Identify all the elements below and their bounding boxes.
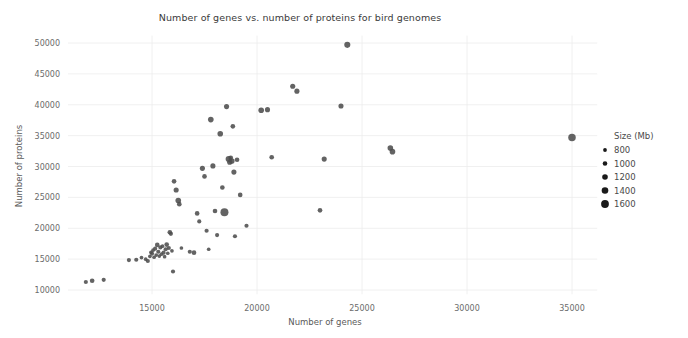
data-point [140, 256, 144, 260]
legend-marker [602, 187, 609, 194]
data-point [127, 258, 131, 262]
data-point [188, 250, 192, 254]
data-point [290, 84, 295, 89]
legend-marker [603, 161, 608, 166]
data-point [224, 104, 229, 109]
legend-title: Size (Mb) [614, 131, 654, 141]
data-point [210, 163, 215, 168]
x-tick-label: 20000 [244, 304, 269, 313]
legend-item-label: 1200 [614, 172, 636, 182]
data-point [156, 250, 160, 254]
data-point [244, 224, 248, 228]
x-tick-label: 30000 [454, 304, 479, 313]
data-point [258, 108, 264, 114]
data-point [202, 174, 207, 179]
legend-item-label: 800 [614, 145, 630, 155]
data-point [146, 259, 150, 263]
y-tick-label: 40000 [35, 101, 60, 110]
data-point [318, 208, 323, 213]
data-point [231, 124, 236, 129]
data-point [338, 103, 343, 108]
data-point [172, 179, 177, 184]
x-axis-ticks: 1500020000250003000035000 [139, 304, 584, 313]
y-tick-label: 25000 [35, 193, 60, 202]
data-point [177, 202, 182, 207]
data-point [171, 269, 175, 273]
y-axis-ticks: 1000015000200002500030000350004000045000… [35, 39, 60, 295]
x-tick-label: 15000 [139, 304, 164, 313]
y-tick-label: 15000 [35, 255, 60, 264]
data-point [200, 166, 205, 171]
data-point [568, 134, 576, 142]
data-point [229, 158, 235, 164]
y-tick-label: 45000 [35, 70, 60, 79]
data-point [174, 187, 179, 192]
data-point [231, 169, 236, 174]
data-point [205, 229, 209, 233]
data-point [390, 149, 396, 155]
data-point [166, 251, 170, 255]
data-point [294, 89, 299, 94]
data-point [192, 250, 197, 255]
data-point [150, 251, 154, 255]
legend-marker [603, 148, 607, 152]
data-point [90, 278, 95, 283]
data-point [167, 246, 171, 250]
data-point [170, 249, 174, 253]
data-point [153, 247, 157, 251]
data-point [344, 42, 350, 48]
legend: Size (Mb)8001000120014001600 [601, 131, 653, 209]
gridlines [68, 36, 597, 295]
legend-item-label: 1000 [614, 159, 636, 169]
y-tick-label: 50000 [35, 39, 60, 48]
data-point [84, 280, 88, 284]
data-point [195, 211, 200, 216]
data-point [213, 209, 218, 214]
legend-item-label: 1400 [614, 186, 636, 196]
data-point [154, 253, 158, 257]
data-point [220, 185, 225, 190]
y-axis-label: Number of proteins [14, 124, 24, 207]
data-point [163, 255, 167, 259]
scatter-chart: Number of genes vs. number of proteins f… [0, 0, 688, 338]
data-point [180, 246, 184, 250]
x-tick-label: 25000 [349, 304, 374, 313]
data-point [215, 233, 219, 237]
data-point [208, 117, 214, 123]
data-point [207, 247, 211, 251]
x-axis-label: Number of genes [288, 317, 362, 327]
data-point [134, 258, 138, 262]
x-tick-label: 35000 [559, 304, 584, 313]
data-point [269, 155, 274, 160]
data-point [322, 157, 327, 162]
y-tick-label: 35000 [35, 132, 60, 141]
data-point [169, 232, 173, 236]
y-tick-label: 30000 [35, 163, 60, 172]
data-point [233, 234, 237, 238]
data-point [102, 278, 106, 282]
data-point [265, 107, 270, 112]
data-point [235, 157, 240, 162]
data-point [238, 193, 243, 198]
legend-marker [602, 174, 608, 180]
data-point [197, 219, 201, 223]
data-points [84, 42, 576, 284]
legend-marker [601, 200, 609, 208]
plot-svg: 1000015000200002500030000350004000045000… [0, 0, 688, 338]
data-point [220, 208, 228, 216]
data-point [161, 244, 165, 248]
y-tick-label: 10000 [35, 286, 60, 295]
data-point [217, 131, 223, 137]
y-tick-label: 20000 [35, 224, 60, 233]
legend-item-label: 1600 [614, 199, 636, 209]
